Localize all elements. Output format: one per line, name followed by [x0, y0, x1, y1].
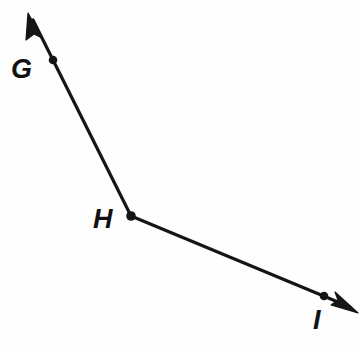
point-dot-h	[126, 211, 136, 221]
point-dot-g	[49, 56, 58, 65]
point-dot-i	[320, 292, 329, 301]
diagram-background	[0, 0, 360, 351]
point-label-h: H	[93, 204, 113, 234]
point-label-g: G	[11, 54, 32, 84]
diagram-canvas: G H I	[0, 0, 360, 351]
point-label-i: I	[313, 305, 321, 335]
geometry-diagram: G H I	[0, 0, 360, 351]
